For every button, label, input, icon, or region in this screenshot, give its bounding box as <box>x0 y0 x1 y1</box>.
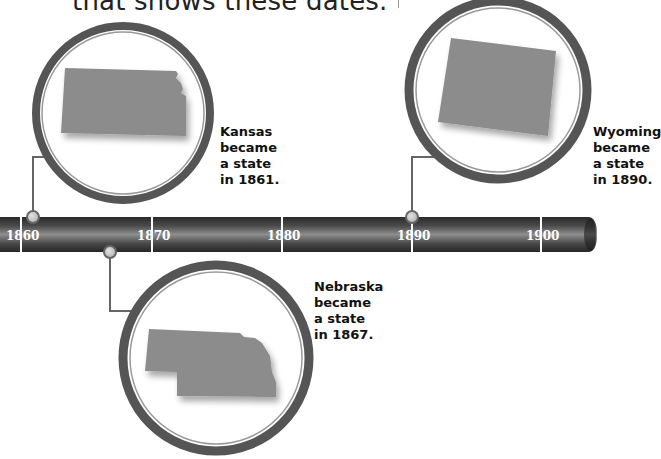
caption-wyoming: Wyoming became a state in 1890. <box>593 124 661 188</box>
wyoming-map-icon <box>438 38 556 136</box>
tick-label-1870: 1870 <box>137 229 170 243</box>
connector-nebraska <box>110 257 138 311</box>
tick-label-1880: 1880 <box>267 229 300 243</box>
caption-kansas: Kansas became a state in 1861. <box>220 124 279 188</box>
caption-line: became <box>220 140 279 156</box>
marker-dot-1861 <box>27 211 39 223</box>
connector-wyoming <box>412 157 435 212</box>
caption-line: Nebraska <box>314 279 383 295</box>
kansas-map-icon <box>61 68 186 136</box>
connector-kansas <box>33 157 50 212</box>
marker-dot-1890 <box>406 211 418 223</box>
caption-line: Wyoming <box>593 124 661 140</box>
caption-line: a state <box>314 311 383 327</box>
caption-line: Kansas <box>220 124 279 140</box>
nebraska-ring <box>123 265 309 451</box>
tick-label-1890: 1890 <box>397 229 430 243</box>
caption-line: in 1890. <box>593 172 661 188</box>
caption-line: a state <box>593 156 661 172</box>
wyoming-ring <box>409 1 587 179</box>
tick-label-1860: 1860 <box>6 229 39 243</box>
tick-label-1900: 1900 <box>526 229 559 243</box>
caption-line: became <box>314 295 383 311</box>
marker-dot-1867 <box>104 246 116 258</box>
kansas-ring <box>36 26 210 200</box>
caption-line: became <box>593 140 661 156</box>
caption-line: in 1861. <box>220 172 279 188</box>
caption-line: in 1867. <box>314 327 383 343</box>
caption-nebraska: Nebraska became a state in 1867. <box>314 279 383 343</box>
caption-line: a state <box>220 156 279 172</box>
